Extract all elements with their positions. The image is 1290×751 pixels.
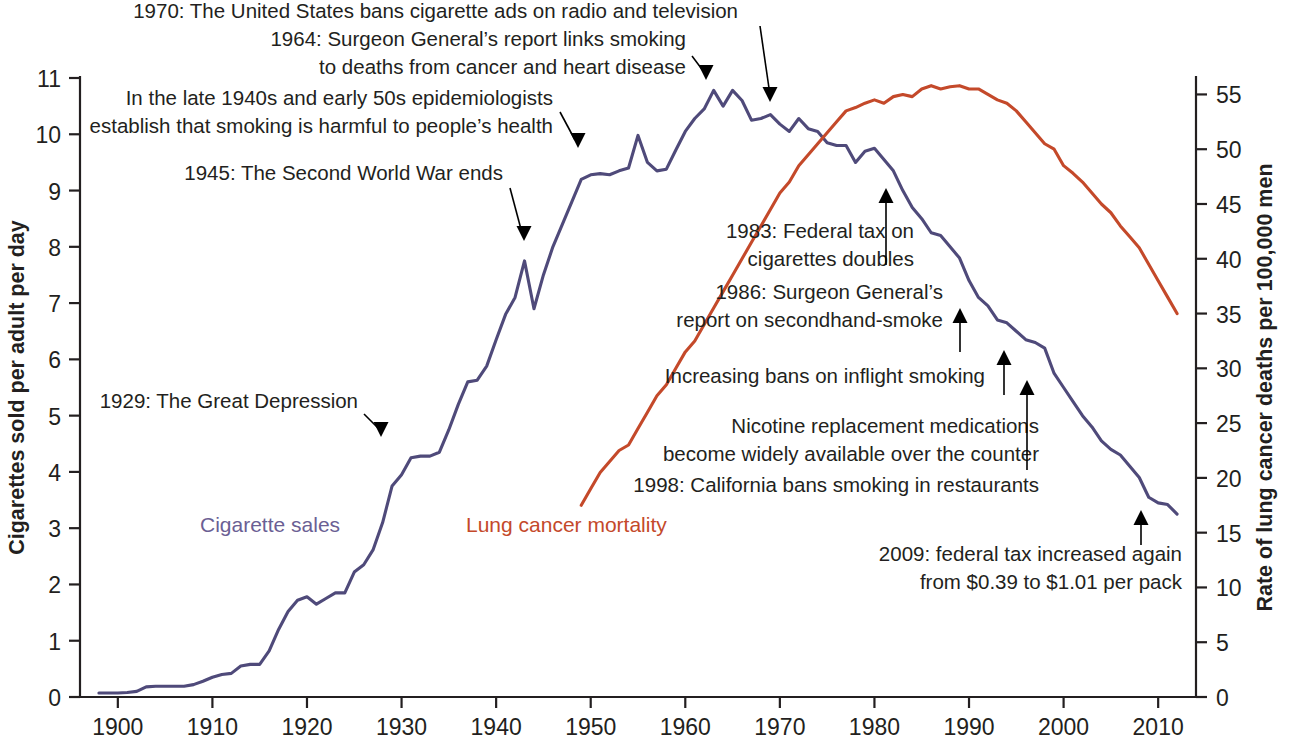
annotation-great-depression-1929: 1929: The Great Depression [100, 389, 389, 437]
y-axis-right-tick-label: 55 [1216, 82, 1242, 108]
y-axis-right-tick-label: 45 [1216, 192, 1242, 218]
annotation-text-line: cigarettes doubles [748, 247, 914, 270]
x-axis-tick-label: 2000 [1038, 714, 1089, 740]
x-axis-tick-label: 1900 [92, 714, 143, 740]
annotation-arrowhead [879, 188, 894, 203]
annotation-nicotine-replacement-otc: Nicotine replacement medicationsbecome w… [663, 380, 1039, 465]
annotation-epidemiologists-1940s-50s: In the late 1940s and early 50s epidemio… [90, 86, 586, 148]
smoking-and-lung-cancer-chart: 1900191019201930194019501960197019801990… [0, 0, 1290, 751]
y-axis-left-tick-label: 10 [35, 122, 61, 148]
x-axis-tick-label: 1950 [565, 714, 616, 740]
y-axis-left-tick-label: 1 [48, 629, 61, 655]
annotation-secondhand-smoke-1986: 1986: Surgeon General’sreport on secondh… [676, 280, 967, 352]
annotation-inflight-smoking-bans: Increasing bans on inflight smoking [665, 350, 1012, 395]
y-axis-left-tick-label: 3 [48, 516, 61, 542]
annotation-text-line: establish that smoking is harmful to peo… [90, 114, 553, 137]
annotation-arrowhead [763, 87, 778, 102]
y-axis-left-tick-label: 2 [48, 572, 61, 598]
y-axis-right-title: Rate of lung cancer deaths per 100,000 m… [1253, 163, 1277, 611]
x-axis-tick-label: 1970 [754, 714, 805, 740]
annotation-text-line: 2009: federal tax increased again [879, 542, 1182, 565]
x-axis-tick-label: 1960 [660, 714, 711, 740]
annotation-arrowhead [374, 422, 389, 437]
annotation-text-line: 1998: California bans smoking in restaur… [633, 473, 1039, 496]
annotation-arrowhead [953, 308, 968, 323]
y-axis-left-title: Cigarettes sold per adult per day [5, 220, 29, 555]
annotation-arrowhead [1134, 510, 1149, 525]
y-axis-left-tick-label: 5 [48, 404, 61, 430]
y-axis-left-tick-label: 7 [48, 291, 61, 317]
x-axis-tick-label: 1980 [849, 714, 900, 740]
annotation-text-line: 1964: Surgeon General’s report links smo… [270, 27, 686, 50]
x-axis-tick-label: 2010 [1133, 714, 1184, 740]
y-axis-left-tick-label: 8 [48, 235, 61, 261]
annotation-arrowhead [699, 65, 714, 80]
annotations-group: 1970: The United States bans cigarette a… [90, 0, 1183, 593]
chart-canvas: 1900191019201930194019501960197019801990… [0, 0, 1290, 751]
legend-label-lung-cancer-mortality: Lung cancer mortality [466, 513, 667, 536]
x-axis-tick-label: 1940 [471, 714, 522, 740]
y-axis-right-tick-label: 25 [1216, 411, 1242, 437]
y-axis-right-tick-label: 5 [1216, 630, 1229, 656]
y-axis-left-tick-label: 9 [48, 179, 61, 205]
annotation-ww2-ends-1945: 1945: The Second World War ends [184, 161, 531, 241]
y-axis-left-tick-label: 11 [37, 66, 61, 92]
y-axis-right-tick-label: 15 [1216, 521, 1242, 547]
annotation-arrowhead [517, 226, 532, 241]
legend-label-cigarette-sales: Cigarette sales [200, 513, 340, 536]
y-axis-right-tick-label: 0 [1216, 685, 1229, 711]
annotation-text-line: 1929: The Great Depression [100, 389, 358, 412]
x-axis-tick-label: 1930 [376, 714, 427, 740]
annotation-text-line: 1970: The United States bans cigarette a… [133, 0, 738, 22]
legend-group: Cigarette salesLung cancer mortality [200, 513, 667, 536]
y-axis-left-tick-label: 4 [48, 460, 61, 486]
y-axis-left-tick-label: 6 [48, 347, 61, 373]
annotation-surgeon-general-1964: 1964: Surgeon General’s report links smo… [270, 27, 713, 80]
annotation-text-line: Increasing bans on inflight smoking [665, 364, 985, 387]
annotation-text-line: become widely available over the counter [663, 442, 1039, 465]
y-axis-right-tick-label: 20 [1216, 466, 1242, 492]
annotation-text-line: to deaths from cancer and heart disease [319, 55, 686, 78]
annotation-text-line: Nicotine replacement medications [731, 414, 1039, 437]
x-axis-tick-label: 1910 [187, 714, 238, 740]
x-axis-tick-label: 1990 [943, 714, 994, 740]
annotation-text-line: report on secondhand-smoke [676, 308, 943, 331]
annotation-leader-line [760, 26, 770, 95]
annotation-text-line: from $0.39 to $1.01 per pack [920, 570, 1183, 593]
annotation-federal-tax-1983: 1983: Federal tax oncigarettes doubles [726, 188, 914, 270]
y-axis-left-tick-label: 0 [48, 685, 61, 711]
x-axis-tick-label: 1920 [281, 714, 332, 740]
annotation-text-line: In the late 1940s and early 50s epidemio… [126, 86, 553, 109]
annotation-arrowhead [997, 350, 1012, 365]
y-axis-right-tick-label: 30 [1216, 356, 1242, 382]
annotation-arrowhead [1020, 380, 1035, 395]
annotation-text-line: 1986: Surgeon General’s [715, 280, 943, 303]
annotation-arrowhead [571, 133, 586, 148]
annotation-federal-tax-2009: 2009: federal tax increased againfrom $0… [879, 510, 1183, 593]
annotation-text-line: 1945: The Second World War ends [184, 161, 503, 184]
y-axis-right-tick-label: 35 [1216, 302, 1242, 328]
y-axis-right-tick-label: 40 [1216, 247, 1242, 273]
y-axis-right-tick-label: 10 [1216, 575, 1242, 601]
y-axis-right-tick-label: 50 [1216, 137, 1242, 163]
